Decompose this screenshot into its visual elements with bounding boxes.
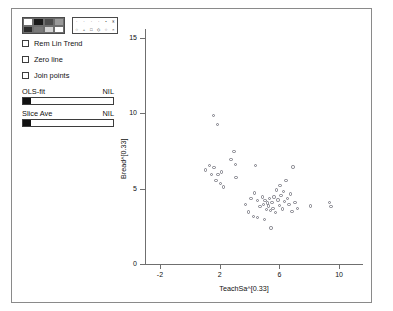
data-point [284,179,287,182]
x-tick [339,264,340,269]
symbol-swatch-icon[interactable]: • [102,18,109,26]
data-point [212,114,215,117]
data-point [290,210,293,213]
y-tick [140,38,145,39]
color-swatch[interactable] [44,18,54,26]
x-tick-label: 10 [331,271,347,278]
checkbox-icon[interactable] [22,40,29,47]
symbol-swatch-icon[interactable]: ○ [102,26,109,34]
slider-thumb[interactable] [23,120,31,126]
data-point [263,218,266,221]
x-tick-label: -2 [152,271,168,278]
data-point [204,168,207,171]
data-point [232,150,235,153]
data-point [328,201,331,204]
slider-thumb[interactable] [23,98,31,104]
color-swatch[interactable] [33,26,43,34]
symbol-swatch-icon[interactable]: ◇ [95,26,102,34]
checkbox-row-join-points[interactable]: Join points [22,68,118,83]
checkbox-label: Join points [34,71,69,80]
color-swatch[interactable] [44,26,54,34]
symbol-swatch-icon[interactable]: ○ [73,26,80,34]
slider-label: Slice Ave [22,109,52,118]
symbol-swatch-icon[interactable]: · [80,18,87,26]
slider-ols-fit[interactable]: OLS-fitNIL [22,87,118,105]
checkbox-row-rem-lin-trend[interactable]: Rem Lin Trend [22,36,118,51]
color-swatch[interactable] [54,18,64,26]
data-point [289,192,292,195]
data-point [208,164,211,167]
data-point [275,188,278,191]
symbol-swatch-icon[interactable]: + [80,26,87,34]
y-tick-label: 5 [123,185,137,192]
slider-track[interactable] [22,97,114,105]
data-point [234,176,237,179]
color-swatch[interactable] [23,18,33,26]
data-point [309,204,312,207]
data-point [271,207,274,210]
data-point [281,207,284,210]
data-point [267,204,270,207]
symbol-palette[interactable]: ····•✳○+□◇○× [72,17,118,34]
data-point [262,203,265,206]
data-point [279,194,282,197]
checkbox-icon[interactable] [22,56,29,63]
x-axis-label: TeachSa^[0.33] [125,284,363,293]
slider-track[interactable] [22,119,114,127]
y-tick-label: 15 [123,34,137,41]
symbol-swatch-icon[interactable]: · [95,18,102,26]
slider-header: OLS-fitNIL [22,87,114,96]
color-swatch[interactable] [23,26,33,34]
symbol-swatch-icon[interactable]: ✳ [110,18,117,26]
data-point [256,216,259,219]
data-point [229,158,232,161]
data-point [291,165,294,168]
scatter-plot: 051015 -22610 TeachSa^[0.33] Bread^[0.33… [125,29,363,291]
checkbox-label: Rem Lin Trend [34,39,82,48]
data-point [220,170,223,173]
symbol-swatch-icon[interactable]: □ [88,26,95,34]
control-panel: ····•✳○+□◇○× Rem Lin TrendZero lineJoin … [22,15,118,127]
data-point [253,191,256,194]
checkbox-icon[interactable] [22,72,29,79]
checkbox-row-zero-line[interactable]: Zero line [22,52,118,67]
data-point [222,185,225,188]
color-palette[interactable] [22,17,65,34]
y-tick [140,189,145,190]
data-point [212,166,215,169]
data-point [216,123,219,126]
data-point [329,205,332,208]
data-point [293,201,296,204]
data-point [276,198,279,201]
data-point [214,179,217,182]
data-point [244,203,247,206]
slider-label: OLS-fit [22,87,45,96]
x-tick [220,264,221,269]
y-tick-label: 10 [123,109,137,116]
data-point [269,226,272,229]
data-point [283,200,286,203]
slider-slice-ave[interactable]: Slice AveNIL [22,109,118,127]
data-point [282,190,285,193]
x-tick [279,264,280,269]
data-point [286,197,289,200]
data-point [247,210,250,213]
symbol-swatch-icon[interactable]: · [73,18,80,26]
slider-value: NIL [102,109,114,118]
data-point [278,184,281,187]
symbol-swatch-icon[interactable]: · [88,18,95,26]
y-tick-label: 0 [123,260,137,267]
x-tick-label: 2 [212,271,228,278]
y-tick [140,113,145,114]
data-point [258,205,261,208]
symbol-swatch-icon[interactable]: × [110,26,117,34]
data-point [265,208,268,211]
slider-list: OLS-fitNILSlice AveNIL [22,87,118,127]
palette-row: ····•✳○+□◇○× [22,15,118,35]
x-tick [160,264,161,269]
data-point [287,203,290,206]
color-swatch[interactable] [33,18,43,26]
data-point [268,197,271,200]
color-swatch[interactable] [54,26,64,34]
checkbox-list: Rem Lin TrendZero lineJoin points [22,36,118,83]
